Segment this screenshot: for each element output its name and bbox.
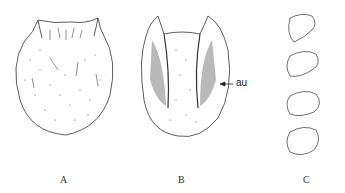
- annotation-au: au: [236, 77, 247, 88]
- panel-c-drawing: [287, 14, 320, 154]
- panel-a-stipple: [24, 49, 100, 120]
- panel-a-drawing: [16, 18, 113, 135]
- au-arrow: [220, 82, 233, 86]
- figure-illustration: [0, 0, 345, 193]
- panel-label-c: C: [303, 174, 310, 185]
- panel-label-b: B: [178, 174, 185, 185]
- panel-label-a: A: [60, 174, 67, 185]
- panel-b-shading: [150, 40, 216, 106]
- panel-b-stipple: [169, 49, 196, 122]
